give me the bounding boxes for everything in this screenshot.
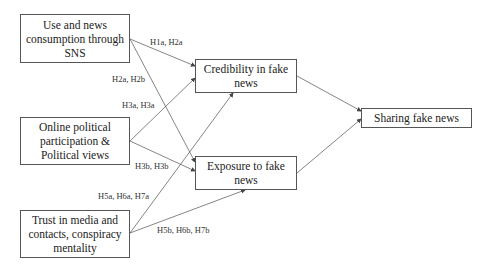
edge-label-h2a-h2b: H2a, H2b xyxy=(112,74,145,84)
node-sharing-label: Sharing fake news xyxy=(374,111,459,125)
node-sns: Use and news consumption through SNS xyxy=(20,14,130,63)
node-exposure-label: Exposure to fake news xyxy=(198,159,294,187)
edge-label-h3b-h3b: H3b, H3b xyxy=(135,161,169,171)
node-sharing: Sharing fake news xyxy=(361,108,472,128)
node-credibility: Credibility in fake news xyxy=(195,59,297,93)
node-exposure: Exposure to fake news xyxy=(195,156,297,190)
node-credibility-label: Credibility in fake news xyxy=(198,62,294,90)
edge-exposure-sharing xyxy=(297,119,361,173)
edge-label-h5a-h6a-h7a: H5a, H6a, H7a xyxy=(98,191,149,201)
edge-label-h5b-h6b-h7b: H5b, H6b, H7b xyxy=(157,225,209,235)
node-sns-label: Use and news consumption through SNS xyxy=(23,18,127,60)
node-trust-label: Trust in media and contacts, conspiracy … xyxy=(23,213,127,255)
node-political: Online political participation & Politic… xyxy=(20,117,130,165)
edge-credibility-sharing xyxy=(297,76,361,111)
edge-label-h3a-h3a: H3a, H3a xyxy=(122,100,155,110)
edge-label-h1a-h2a: H1a, H2a xyxy=(150,37,183,47)
node-political-label: Online political participation & Politic… xyxy=(23,120,127,162)
node-trust: Trust in media and contacts, conspiracy … xyxy=(20,210,130,258)
